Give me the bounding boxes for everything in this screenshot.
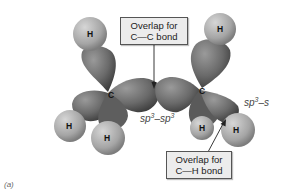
callout-line: C—C bond [125, 31, 183, 42]
ch-overlap-callout: Overlap for C—H bond [166, 151, 232, 179]
hydrogen-atom-label: H [217, 24, 223, 34]
hydrogen-atom-label: H [233, 125, 239, 135]
label-part: sp [140, 113, 151, 124]
label-part: sp [244, 97, 255, 108]
right-upper-ch-bond [191, 13, 236, 88]
hydrogen-atom-label: H [104, 133, 110, 143]
carbon-atom-label: C [108, 90, 114, 100]
callout-line: Overlap for [171, 154, 227, 165]
hydrogen-atom-label: H [87, 29, 93, 39]
hydrogen-atom-label: H [199, 123, 205, 133]
sp3-sp3-label: sp3–sp3 [140, 112, 175, 124]
label-part: sp [160, 113, 171, 124]
sp3-s-label: sp3–s [244, 96, 269, 108]
label-part: s [264, 97, 269, 108]
hydrogen-atom-label: H [66, 121, 72, 131]
label-superscript: 3 [171, 112, 175, 119]
panel-label: (a) [4, 180, 14, 189]
callout-line: C—H bond [171, 165, 227, 176]
callout-line: Overlap for [125, 20, 183, 31]
left-upper-ch-bond [73, 17, 116, 92]
carbon-atom-label: C [199, 86, 205, 96]
cc-overlap-callout: Overlap for C—C bond [120, 17, 188, 45]
